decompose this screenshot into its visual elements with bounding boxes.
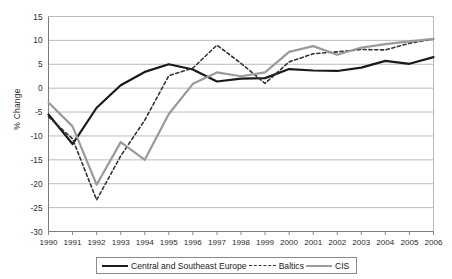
x-tick-label: 1994 — [136, 238, 155, 247]
y-tick-label: -10 — [31, 131, 43, 141]
legend-swatch-icon — [306, 265, 332, 267]
x-tick-label: 1993 — [112, 238, 131, 247]
line-chart: % Change 151050-5-10-15-20-25-30 1990199… — [0, 0, 452, 279]
x-tick-label: 2006 — [424, 238, 443, 247]
y-tick-label: 0 — [38, 83, 43, 93]
y-tick-label: -20 — [31, 179, 43, 189]
x-tick-label: 1999 — [256, 238, 275, 247]
x-tick-label: 1992 — [88, 238, 107, 247]
x-tick-label: 1996 — [184, 238, 203, 247]
x-tick-label: 2002 — [328, 238, 347, 247]
x-tick-label: 2005 — [400, 238, 419, 247]
x-tick-label: 2000 — [280, 238, 299, 247]
x-axis-tick-marks — [49, 232, 434, 236]
x-axis-tick-labels: 1990199119921993199419951996199719981999… — [39, 238, 443, 247]
y-tick-label: 5 — [38, 59, 43, 69]
legend-swatch-icon — [102, 265, 128, 267]
x-tick-label: 2003 — [352, 238, 371, 247]
legend-item: Central and Southeast Europe — [102, 261, 249, 271]
y-tick-label: 10 — [33, 35, 43, 45]
x-tick-label: 1990 — [39, 238, 58, 247]
legend-item: CIS — [306, 261, 351, 271]
y-tick-label: -25 — [31, 203, 43, 213]
y-tick-label: 15 — [33, 12, 43, 22]
legend-label: Baltics — [276, 261, 306, 271]
x-tick-label: 1998 — [232, 238, 251, 247]
y-tick-label: -30 — [31, 227, 43, 237]
plot-border — [49, 17, 434, 232]
x-tick-label: 1995 — [160, 238, 179, 247]
x-tick-label: 2004 — [376, 238, 395, 247]
chart-plot-area: 151050-5-10-15-20-25-30 1990199119921993… — [0, 0, 452, 279]
legend-swatch-icon — [249, 265, 276, 266]
y-tick-label: -5 — [35, 107, 43, 117]
y-tick-label: -15 — [31, 155, 43, 165]
legend-label: Central and Southeast Europe — [128, 261, 249, 271]
x-tick-label: 2001 — [304, 238, 323, 247]
y-axis-tick-labels: 151050-5-10-15-20-25-30 — [31, 12, 43, 237]
legend-item: Baltics — [249, 261, 306, 271]
x-tick-label: 1991 — [64, 238, 83, 247]
x-tick-label: 1997 — [208, 238, 227, 247]
chart-legend: Central and Southeast EuropeBalticsCIS — [96, 257, 357, 274]
legend-label: CIS — [332, 261, 351, 271]
data-series-lines — [49, 39, 434, 200]
grid-lines — [49, 17, 434, 232]
series-line — [49, 57, 434, 144]
